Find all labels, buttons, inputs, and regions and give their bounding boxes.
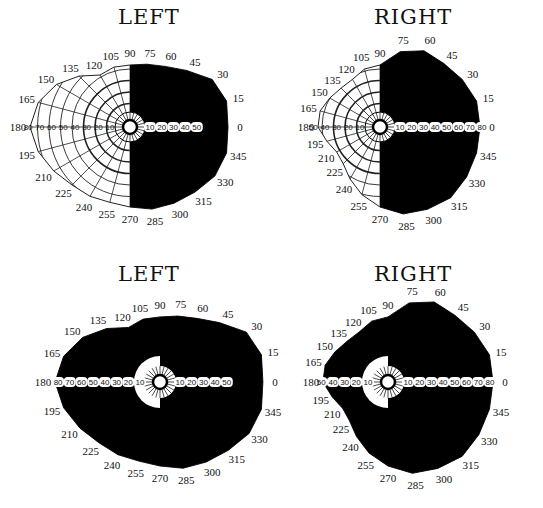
meridian-label-210: 210 — [35, 171, 52, 183]
scale-label: 10 — [396, 123, 405, 132]
meridian-label-105: 105 — [103, 50, 120, 62]
meridian-label-210: 210 — [318, 152, 335, 164]
meridian-label-285: 285 — [398, 220, 415, 232]
meridian-label-270: 270 — [372, 213, 389, 225]
scale-label: 10 — [404, 378, 413, 387]
meridian-label-15: 15 — [268, 346, 280, 358]
meridian-label-15: 15 — [483, 92, 495, 104]
scale-label: 30 — [340, 378, 349, 387]
scale-label: 30 — [199, 378, 208, 387]
scale-label: 70 — [466, 123, 475, 132]
meridian-label-120: 120 — [345, 316, 362, 328]
meridian-label-330: 330 — [481, 435, 498, 447]
chart-bottom-right: 1020304050607080504030201001530456075901… — [268, 262, 510, 502]
scale-label: 60 — [454, 123, 463, 132]
meridian-label-75: 75 — [407, 285, 419, 297]
meridian-label-105: 105 — [360, 304, 377, 316]
scale-label: 60 — [77, 378, 86, 387]
meridian-label-345: 345 — [265, 406, 282, 418]
scale-label: 50 — [59, 123, 68, 132]
meridian-label-165: 165 — [305, 356, 322, 368]
scale-label: 70 — [35, 123, 44, 132]
meridian-label-90: 90 — [155, 299, 167, 311]
meridian-label-345: 345 — [230, 150, 247, 162]
scale-label: 40 — [181, 123, 190, 132]
meridian-label-30: 30 — [217, 68, 229, 80]
scale-label: 40 — [431, 123, 440, 132]
scale-label: 40 — [211, 378, 220, 387]
meridian-label-270: 270 — [380, 472, 397, 484]
meridian-label-345: 345 — [480, 150, 497, 162]
scale-label: 50 — [222, 378, 231, 387]
meridian-label-150: 150 — [64, 325, 81, 337]
scale-label: 30 — [427, 378, 436, 387]
meridian-label-315: 315 — [229, 453, 246, 465]
meridian-label-240: 240 — [342, 441, 359, 453]
chart-bottom-left: 1020304050807060504030201001530456075901… — [35, 262, 282, 502]
chart-top-left: 1020304050807060504030201001530456075901… — [10, 0, 270, 257]
scale-label: 70 — [65, 378, 74, 387]
scale-label: 60 — [462, 378, 471, 387]
meridian-label-315: 315 — [195, 195, 212, 207]
meridian-label-225: 225 — [326, 166, 343, 178]
scale-label: 10 — [106, 123, 115, 132]
visual-field-charts: 1020304050807060504030201001530456075901… — [0, 0, 543, 508]
meridian-label-180: 180 — [10, 121, 27, 133]
meridian-label-270: 270 — [122, 213, 139, 225]
scale-label: 40 — [439, 378, 448, 387]
scale-label: 80 — [54, 378, 63, 387]
meridian-label-150: 150 — [38, 73, 55, 85]
scale-label: 30 — [419, 123, 428, 132]
chart-top-right: 1020304050607080504030201001530456075901… — [260, 0, 520, 257]
meridian-label-45: 45 — [447, 49, 459, 61]
meridian-label-90: 90 — [125, 47, 137, 59]
meridian-label-105: 105 — [132, 302, 149, 314]
meridian-label-165: 165 — [44, 347, 61, 359]
meridian-label-225: 225 — [82, 445, 99, 457]
meridian-label-300: 300 — [436, 473, 453, 485]
meridian-label-75: 75 — [175, 298, 187, 310]
meridian-label-300: 300 — [425, 214, 442, 226]
meridian-label-210: 210 — [324, 408, 341, 420]
meridian-label-150: 150 — [311, 86, 328, 98]
meridian-label-60: 60 — [425, 34, 437, 46]
meridian-label-60: 60 — [197, 302, 209, 314]
scale-label: 80 — [477, 123, 486, 132]
scale-label: 30 — [112, 378, 121, 387]
meridian-label-255: 255 — [98, 208, 115, 220]
meridian-label-15: 15 — [496, 346, 508, 358]
meridian-label-285: 285 — [407, 479, 424, 491]
scale-label: 40 — [70, 123, 79, 132]
scale-label: 50 — [442, 123, 451, 132]
scale-label: 20 — [352, 378, 361, 387]
meridian-label-195: 195 — [18, 149, 35, 161]
meridian-label-120: 120 — [114, 311, 131, 323]
meridian-label-225: 225 — [333, 423, 350, 435]
meridian-label-0: 0 — [237, 121, 243, 133]
meridian-label-75: 75 — [144, 47, 156, 59]
scale-label: 50 — [192, 123, 201, 132]
meridian-label-45: 45 — [458, 301, 470, 313]
meridian-label-240: 240 — [104, 459, 121, 471]
scale-label: 40 — [100, 378, 109, 387]
meridian-label-30: 30 — [251, 320, 263, 332]
meridian-label-165: 165 — [300, 102, 317, 114]
meridian-label-60: 60 — [166, 50, 178, 62]
meridian-label-345: 345 — [493, 406, 510, 418]
scale-label: 50 — [89, 378, 98, 387]
meridian-label-165: 165 — [18, 93, 35, 105]
meridian-label-330: 330 — [469, 177, 486, 189]
scale-label: 10 — [364, 378, 373, 387]
scale-label: 40 — [328, 378, 337, 387]
scale-label: 20 — [415, 378, 424, 387]
meridian-label-0: 0 — [502, 376, 508, 388]
meridian-label-330: 330 — [217, 176, 234, 188]
scale-label: 80 — [485, 378, 494, 387]
scale-label: 70 — [474, 378, 483, 387]
scale-label: 30 — [332, 123, 341, 132]
meridian-label-135: 135 — [324, 74, 341, 86]
meridian-label-195: 195 — [312, 394, 329, 406]
meridian-label-195: 195 — [307, 138, 324, 150]
meridian-label-90: 90 — [383, 299, 395, 311]
scale-label: 60 — [47, 123, 56, 132]
